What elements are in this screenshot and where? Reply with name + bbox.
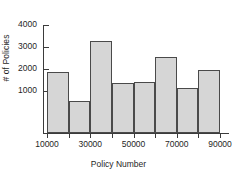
y-tick-label: 2000 [11, 64, 37, 73]
x-tick-mark [177, 134, 178, 138]
x-tick-label: 70000 [154, 139, 200, 149]
x-tick-mark [90, 134, 91, 138]
y-tick-label: 4000 [11, 20, 37, 29]
histogram-bar [112, 83, 134, 133]
histogram-bar [134, 82, 156, 133]
x-axis-label: Policy Number [0, 159, 237, 169]
x-tick-label: 10000 [24, 139, 70, 149]
x-tick-label: 90000 [197, 139, 237, 149]
histogram-bar [47, 72, 69, 133]
x-tick-mark [155, 134, 156, 138]
x-axis-line [43, 133, 229, 134]
x-tick-mark [112, 134, 113, 138]
x-tick-mark [134, 134, 135, 138]
histogram-bar [90, 41, 112, 133]
x-tick-mark [47, 134, 48, 138]
histogram-chart: # of Policies 4000 3000 2000 1000 100003… [0, 0, 237, 176]
x-tick-mark [220, 134, 221, 138]
x-tick-mark [198, 134, 199, 138]
y-axis-line [43, 25, 44, 134]
x-tick-mark [69, 134, 70, 138]
histogram-bar [198, 70, 220, 133]
y-tick-label: 1000 [11, 86, 37, 95]
histogram-bar [155, 57, 177, 133]
y-axis-tick-labels: 4000 3000 2000 1000 [11, 0, 37, 176]
y-tick-label: 3000 [11, 42, 37, 51]
x-tick-label: 50000 [111, 139, 157, 149]
histogram-bar [177, 88, 199, 133]
plot-area [47, 25, 220, 133]
histogram-bar [69, 101, 91, 133]
x-tick-label: 30000 [67, 139, 113, 149]
